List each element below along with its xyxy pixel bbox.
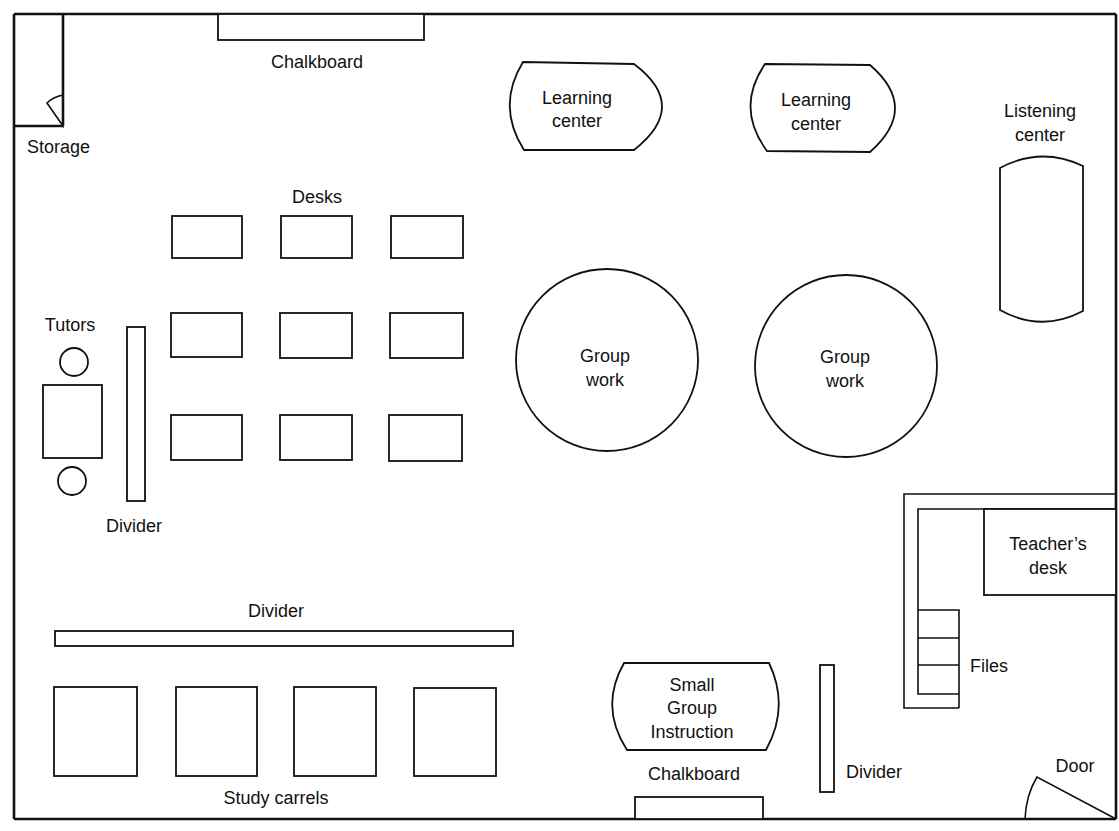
learning-center-2-label-line1: Learning <box>781 90 851 110</box>
storage-door-swing-icon <box>47 95 63 126</box>
teachers-desk-label-line1: Teacher’s <box>1009 534 1086 554</box>
divider-bottom-label: Divider <box>846 762 902 782</box>
tutor-chair <box>58 467 86 495</box>
storage-closet: Storage <box>14 14 90 157</box>
storage-label: Storage <box>27 137 90 157</box>
group-work-1-label-line1: Group <box>580 346 630 366</box>
tutor-table <box>43 385 102 458</box>
study-carrel <box>54 687 137 776</box>
classroom-floor-plan: Storage Chalkboard Desks Tutors Divider … <box>0 0 1119 831</box>
small-group-label-line2: Group <box>667 698 717 718</box>
door-swing-icon <box>1025 777 1116 819</box>
tutors-label: Tutors <box>45 315 95 335</box>
divider-long: Divider <box>55 601 513 646</box>
study-carrel <box>414 688 496 776</box>
desk <box>389 415 462 461</box>
small-group-label-line1: Small <box>669 675 714 695</box>
divider-bottom: Divider <box>820 665 902 792</box>
files-label: Files <box>970 656 1008 676</box>
group-work-table-1: Group work <box>516 269 698 451</box>
study-carrels: Study carrels <box>54 687 496 808</box>
chalkboard-bottom: Chalkboard <box>635 764 763 819</box>
group-work-2-label-line1: Group <box>820 347 870 367</box>
divider-left-label: Divider <box>106 516 162 536</box>
teachers-desk-label-line2: desk <box>1029 558 1068 578</box>
chalkboard-top-label: Chalkboard <box>271 52 363 72</box>
desk <box>391 216 463 258</box>
divider-left: Divider <box>106 327 162 536</box>
listening-center-label-line1: Listening <box>1004 101 1076 121</box>
learning-center-2: Learning center <box>750 64 895 152</box>
teacher-corner: Teacher’s desk Files <box>904 494 1116 708</box>
group-work-1-label-line2: work <box>585 370 625 390</box>
desks-label: Desks <box>292 187 342 207</box>
tutor-chair <box>60 348 88 376</box>
learning-center-1-label-line2: center <box>552 111 602 131</box>
study-carrel <box>294 687 376 776</box>
small-group-label-line3: Instruction <box>650 722 733 742</box>
tutors-area: Tutors <box>43 315 102 495</box>
door-label: Door <box>1055 756 1094 776</box>
chalkboard-top: Chalkboard <box>218 14 424 72</box>
learning-center-1-label-line1: Learning <box>542 88 612 108</box>
desk <box>171 415 242 460</box>
desk <box>390 313 463 358</box>
learning-center-1: Learning center <box>510 62 662 150</box>
divider-long-label: Divider <box>248 601 304 621</box>
desk <box>172 216 242 258</box>
small-group-instruction: Small Group Instruction <box>612 663 779 750</box>
study-carrel <box>176 687 257 776</box>
group-work-table-2: Group work <box>755 275 937 457</box>
learning-center-2-label-line2: center <box>791 114 841 134</box>
desks-group: Desks <box>171 187 463 461</box>
group-work-2-label-line2: work <box>825 371 865 391</box>
listening-center-label-line2: center <box>1015 125 1065 145</box>
desk <box>280 415 352 460</box>
chalkboard-bottom-label: Chalkboard <box>648 764 740 784</box>
desk <box>171 313 242 357</box>
listening-center: Listening center <box>1000 101 1083 322</box>
desk <box>281 216 352 258</box>
door: Door <box>1025 756 1116 819</box>
study-carrels-label: Study carrels <box>223 788 328 808</box>
desk <box>280 313 352 358</box>
